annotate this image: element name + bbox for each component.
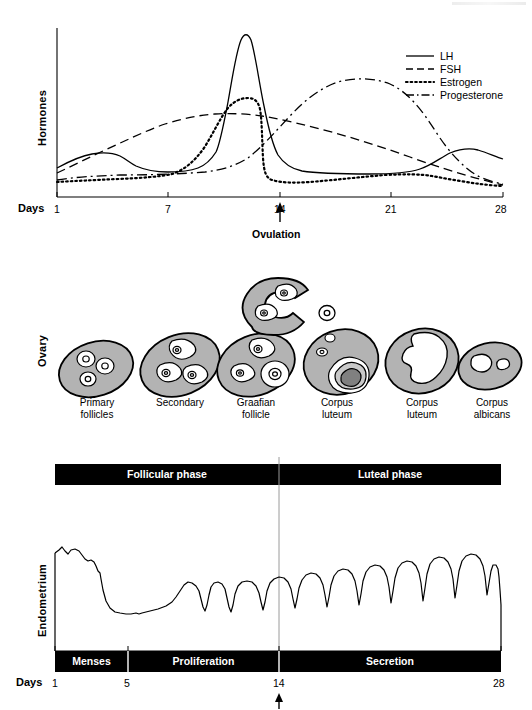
- ovary-label-primary-follicles: Primary follicles: [61, 397, 133, 420]
- ovary-stage-primary-follicles: [52, 332, 141, 407]
- hormones-days-word: Days: [18, 202, 44, 214]
- ovary-stage-secondary: [131, 322, 230, 408]
- hormones-x-ticks: [57, 192, 503, 197]
- ovary-panel: Ovary: [0, 262, 532, 437]
- scan-artifact: [452, 2, 526, 5]
- hormones-tick-21: 21: [385, 203, 397, 215]
- hormones-tick-28: 28: [495, 203, 507, 215]
- hormones-legend: LH FSH Estrogen Progesterone: [406, 50, 503, 101]
- endometrium-tick-1: 1: [52, 677, 58, 689]
- endometrium-panel: Follicular phase Luteal phase Endometriu…: [0, 455, 532, 710]
- endometrium-lining-curve: [55, 547, 501, 651]
- curve-fsh: [57, 114, 503, 185]
- hormones-tick-1: 1: [54, 203, 60, 215]
- ovary-diagram: [0, 262, 532, 402]
- hormones-tick-14: 14: [274, 203, 286, 215]
- ovary-stage-corpus-luteum-active: [294, 319, 387, 405]
- ovary-label-corpus-luteum-active: Corpus luteum: [303, 397, 371, 420]
- ovary-label-corpus-albicans: Corpus albicans: [456, 397, 528, 420]
- hormones-tick-7: 7: [165, 203, 171, 215]
- endometrium-tick-14: 14: [273, 677, 285, 689]
- endometrium-days-word: Days: [16, 676, 42, 688]
- curve-lh: [57, 35, 503, 174]
- hormones-chart: LH FSH Estrogen Progesterone: [0, 0, 532, 210]
- endometrium-tick-5: 5: [124, 677, 130, 689]
- ovary-stage-corpus-albicans: [453, 336, 526, 396]
- legend-label-lh: LH: [440, 50, 453, 62]
- ovary-stage-graafian-follicle: [208, 322, 305, 408]
- legend-label-estrogen: Estrogen: [440, 76, 482, 88]
- curve-progesterone: [57, 79, 503, 184]
- endometrium-ovulation-arrow-icon: [0, 691, 532, 710]
- released-ovum: [319, 306, 335, 321]
- endometrium-tick-28: 28: [493, 677, 505, 689]
- ovary-label-secondary: Secondary: [144, 397, 216, 409]
- ovary-label-graafian-follicle: Graafian follicle: [222, 397, 290, 420]
- hormones-panel: Hormones LH FSH Estrogen Progesterone: [0, 0, 532, 250]
- legend-label-progesterone: Progesterone: [440, 89, 503, 101]
- ovulation-label: Ovulation: [252, 228, 300, 240]
- ovary-stage-corpus-luteum-regressing: [377, 319, 467, 403]
- stage-bar-dividers: [0, 651, 532, 673]
- endometrium-chart: [0, 455, 532, 670]
- ovary-label-corpus-luteum-regressing: Corpus luteum: [388, 397, 456, 420]
- legend-label-fsh: FSH: [440, 63, 461, 75]
- ovary-ruptured-follicle: [243, 278, 335, 335]
